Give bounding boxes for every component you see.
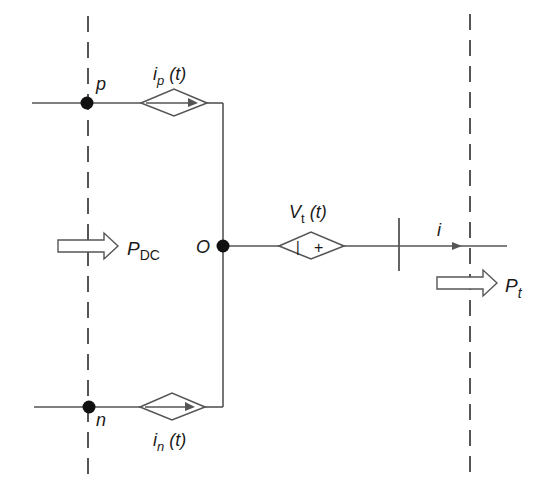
ip-label: ip (t) <box>153 64 186 88</box>
node-o-dot <box>217 240 230 253</box>
vt-minus-sign: | <box>296 239 300 255</box>
arrow-right-icon <box>452 242 462 250</box>
node-n-dot <box>83 401 96 414</box>
in-label: in (t) <box>153 430 186 454</box>
voltage-source-vt <box>279 232 344 259</box>
power-flow-t-arrow-icon <box>437 270 497 296</box>
node-o-label: O <box>196 237 210 257</box>
power-dc-label: PDC <box>127 238 160 263</box>
node-n-label: n <box>96 410 106 430</box>
output-branch <box>217 218 508 271</box>
converter-circuit-diagram: p n O ip (t) in (t) Vt (t) | + i PDC Pt <box>0 0 553 502</box>
node-p-dot <box>81 97 94 110</box>
top-branch <box>32 89 223 116</box>
vt-label: Vt (t) <box>289 202 327 226</box>
vt-plus-sign: + <box>314 239 323 256</box>
bottom-branch <box>34 393 223 420</box>
power-t-label: Pt <box>505 275 523 301</box>
node-p-label: p <box>95 74 106 94</box>
current-i-label: i <box>437 220 442 240</box>
